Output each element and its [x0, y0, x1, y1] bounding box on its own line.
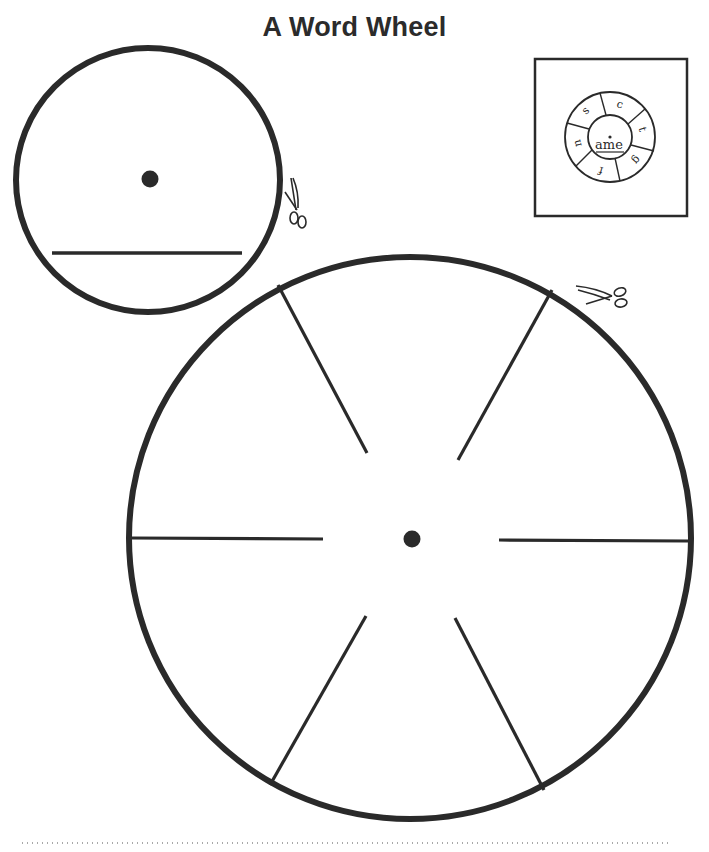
outer-wheel-center-dot [404, 531, 421, 548]
scissors-icon [576, 286, 628, 308]
worksheet-canvas: ame c t g f n s [0, 0, 709, 852]
spoke-right [499, 540, 688, 541]
inset-stem-text: ame [595, 137, 623, 152]
spoke-lower-left [270, 616, 366, 785]
spoke-lower-right [455, 618, 544, 790]
spoke-upper-right [458, 290, 552, 460]
example-wheel-inset: ame c t g f n s [535, 59, 687, 216]
outer-wheel [129, 257, 691, 819]
inner-wheel [16, 48, 280, 312]
inner-wheel-center-dot [142, 171, 159, 188]
spoke-upper-left [278, 285, 367, 453]
scissors-icon [285, 178, 306, 228]
spoke-left [132, 538, 323, 539]
